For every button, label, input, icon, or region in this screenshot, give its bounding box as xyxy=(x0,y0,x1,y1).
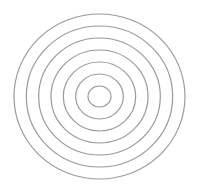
rings-group xyxy=(14,14,185,179)
ring-7 xyxy=(88,86,111,107)
ring-2 xyxy=(26,26,172,167)
ring-5 xyxy=(63,62,135,131)
ring-1 xyxy=(14,14,185,179)
ring-3 xyxy=(39,38,161,155)
ring-4 xyxy=(51,50,148,143)
ring-6 xyxy=(76,74,124,119)
concentric-circles-diagram xyxy=(0,0,200,194)
